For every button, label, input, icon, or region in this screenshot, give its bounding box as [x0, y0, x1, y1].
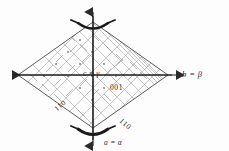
miller-index-001: 001 [110, 84, 123, 92]
axis-label-a-alpha: a = α [104, 139, 122, 147]
projection-figure: b = β a = α c = γ 001 110 110 [0, 0, 229, 151]
axis-label-c-gamma: c = γ [83, 70, 100, 78]
axis-label-b-beta: b = β [182, 70, 202, 79]
